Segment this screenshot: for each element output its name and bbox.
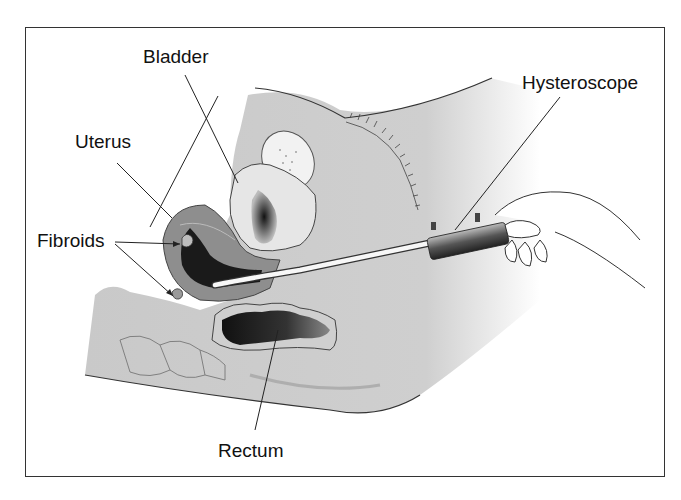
label-hysteroscope: Hysteroscope xyxy=(522,73,638,92)
label-bladder: Bladder xyxy=(143,47,209,66)
label-rectum: Rectum xyxy=(218,441,283,460)
label-uterus: Uterus xyxy=(75,132,131,151)
label-fibroids: Fibroids xyxy=(37,231,105,250)
